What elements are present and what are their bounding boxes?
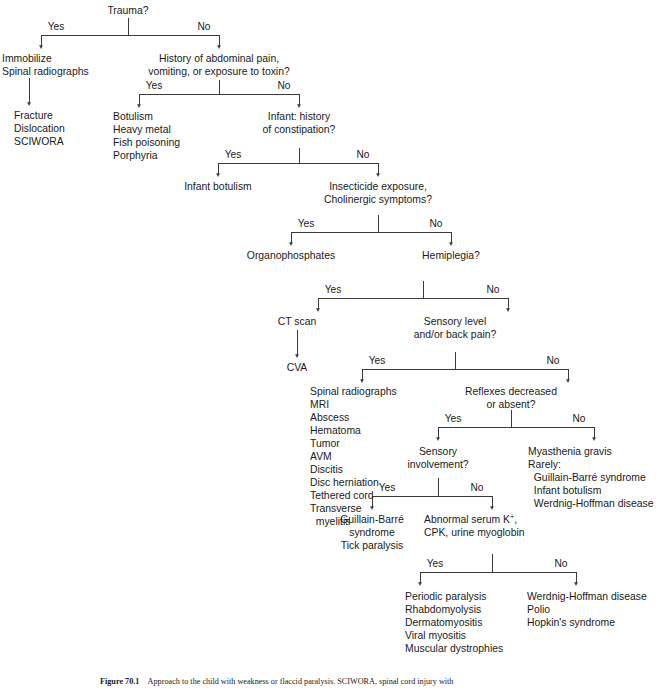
outcome-myopathies-line-0: Periodic paralysis (405, 591, 486, 602)
question-insecticide-line-0: Insecticide exposure, (329, 181, 427, 192)
outcome-cva: CVA (287, 362, 308, 373)
outcome-spinal-workup-line-7: Disc herniation (310, 477, 379, 488)
outcome-fracture-line-0: Fracture (14, 110, 53, 121)
outcome-spinal-workup-line-9: Transverse (310, 503, 362, 514)
question-abdominal-line-0: History of abdominal pain, (159, 53, 279, 64)
outcome-myasthenia-line-1: Rarely: (528, 459, 561, 470)
abnormal-serum-text: Abnormal serum K (424, 514, 510, 525)
outcome-spinal-workup-line-6: Discitis (310, 464, 343, 475)
outcome-ct-scan: CT scan (278, 316, 317, 327)
outcome-motor-neuron-line-0: Werdnig-Hoffman disease (527, 591, 647, 602)
label-trauma-yes: Yes (48, 21, 65, 32)
outcome-motor-neuron-line-2: Hopkin's syndrome (527, 617, 615, 628)
question-infant-constipation-line-1: of constipation? (263, 124, 336, 135)
label-sensory-involvement-no: No (470, 482, 483, 493)
flowchart-figure: Trauma? Yes No Immobilize Spinal radiogr… (0, 0, 662, 689)
outcome-botulism-line-1: Heavy metal (113, 124, 171, 135)
figure-caption-text: Approach to the child with weakness or f… (148, 677, 454, 686)
label-insecticide-yes: Yes (298, 218, 315, 229)
figure-caption-label: Figure 70.1 (100, 677, 139, 686)
outcome-immobilize-line-1: Spinal radiographs (2, 66, 89, 77)
question-reflexes-line-1: or absent? (486, 399, 535, 410)
outcome-infant-botulism: Infant botulism (184, 181, 252, 192)
question-reflexes-line-0: Reflexes decreased (465, 386, 557, 397)
outcome-spinal-workup-line-1: MRI (310, 399, 329, 410)
outcome-spinal-workup-line-5: AVM (310, 451, 332, 462)
figure-caption-spacer (139, 677, 147, 686)
label-sensory-involvement-yes: Yes (379, 482, 396, 493)
outcome-myasthenia-line-0: Myasthenia gravis (528, 446, 612, 457)
outcome-immobilize-line-0: Immobilize (2, 53, 52, 64)
figure-caption: Figure 70.1 Approach to the child with w… (100, 676, 640, 687)
label-reflexes-no: No (572, 413, 585, 424)
branch-infant-constipation (218, 148, 378, 175)
label-insecticide-no: No (429, 218, 442, 229)
label-reflexes-yes: Yes (445, 413, 462, 424)
branch-abnormal-serum (420, 554, 576, 584)
branch-hemiplegia (318, 281, 508, 310)
label-trauma-no: No (197, 21, 210, 32)
label-abdominal-yes: Yes (146, 80, 163, 91)
question-insecticide-line-1: Cholinergic symptoms? (324, 194, 432, 205)
label-abnormal-serum-no: No (554, 558, 567, 569)
label-hemiplegia-yes: Yes (325, 284, 342, 295)
outcome-fracture-line-1: Dislocation (14, 123, 65, 134)
label-abdominal-no: No (277, 80, 290, 91)
outcome-guillain-barre-line-2: Tick paralysis (341, 540, 404, 551)
question-trauma: Trauma? (107, 5, 148, 16)
outcome-spinal-workup-line-3: Hematoma (310, 425, 361, 436)
branch-abdominal (139, 80, 299, 106)
outcome-botulism-line-2: Fish poisoning (113, 137, 180, 148)
outcome-organophosphates: Organophosphates (247, 250, 335, 261)
outcome-spinal-workup-line-0: Spinal radiographs (310, 386, 397, 397)
label-constipation-no: No (356, 149, 369, 160)
decision-tree-diagram: Trauma? Yes No Immobilize Spinal radiogr… (0, 0, 662, 689)
label-abnormal-serum-yes: Yes (427, 558, 444, 569)
outcome-myopathies-line-1: Rhabdomyolysis (405, 604, 481, 615)
question-abnormal-serum-line-1: CPK, urine myoglobin (424, 527, 525, 538)
outcome-guillain-barre-line-1: syndrome (349, 527, 395, 538)
label-hemiplegia-no: No (486, 284, 499, 295)
outcome-spinal-workup-line-8: Tethered cord (310, 490, 374, 501)
branch-sensory-level (362, 352, 568, 381)
question-sensory-level-line-0: Sensory level (424, 316, 486, 327)
outcome-spinal-workup-line-2: Abscess (310, 412, 349, 423)
outcome-fracture-line-2: SCIWORA (14, 136, 64, 147)
outcome-spinal-workup-line-4: Tumor (310, 438, 340, 449)
question-sensory-involvement-line-1: involvement? (407, 459, 468, 470)
outcome-botulism-line-0: Botulism (113, 111, 153, 122)
outcome-myopathies-line-2: Dermatomyositis (405, 617, 482, 628)
abnormal-serum-comma: , (514, 514, 517, 525)
label-constipation-yes: Yes (225, 149, 242, 160)
question-abdominal-line-1: vomiting, or exposure to toxin? (148, 66, 290, 77)
outcome-myasthenia-line-3: Infant botulism (528, 485, 601, 496)
question-hemiplegia: Hemiplegia? (422, 250, 480, 261)
branch-trauma (41, 18, 219, 47)
question-sensory-level-line-1: and/or back pain? (414, 329, 497, 340)
outcome-motor-neuron-line-1: Polio (527, 604, 550, 615)
outcome-botulism-line-3: Porphyria (113, 150, 158, 161)
branch-insecticide (291, 215, 451, 244)
outcome-myopathies-line-3: Viral myositis (405, 630, 466, 641)
label-sensory-level-yes: Yes (369, 355, 386, 366)
outcome-myopathies-line-4: Muscular dystrophies (405, 643, 503, 654)
label-sensory-level-no: No (546, 355, 559, 366)
question-infant-constipation-line-0: Infant: history (268, 111, 331, 122)
branch-reflexes (438, 410, 594, 439)
question-sensory-involvement-line-0: Sensory (419, 446, 458, 457)
outcome-guillain-barre-line-0: Guillain-Barré (340, 514, 404, 525)
question-abnormal-serum-line-0: Abnormal serum K+, (424, 512, 517, 526)
outcome-myasthenia-line-2: Guillain-Barré syndrome (528, 472, 646, 483)
outcome-myasthenia-line-4: Werdnig-Hoffman disease (528, 498, 654, 509)
